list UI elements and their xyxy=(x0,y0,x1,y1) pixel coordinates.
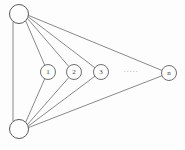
edge-hub-top-node-3 xyxy=(28,17,95,68)
edge-hub-top-node-2 xyxy=(27,18,69,66)
hub-node-top[interactable] xyxy=(10,5,29,24)
hub-node-bottom[interactable] xyxy=(10,120,29,139)
node-3[interactable]: 3 xyxy=(94,65,109,80)
ellipsis-label: ····· xyxy=(124,68,139,76)
edge-group xyxy=(13,15,162,127)
edge-hub-bottom-node-3 xyxy=(28,76,95,126)
node-1[interactable]: 1 xyxy=(41,65,56,80)
node-3-label: 3 xyxy=(99,68,103,76)
graph-svg: 1 2 3 ····· n xyxy=(0,0,185,150)
edge-hub-bottom-node-n xyxy=(28,76,162,128)
node-2-label: 2 xyxy=(72,68,76,76)
hub-bottom-circle[interactable] xyxy=(10,120,29,139)
hub-top-circle[interactable] xyxy=(10,5,29,24)
graph-diagram-canvas: 1 2 3 ····· n xyxy=(0,0,185,150)
node-n-label: n xyxy=(167,69,171,77)
node-1-label: 1 xyxy=(46,68,50,76)
node-2[interactable]: 2 xyxy=(67,65,82,80)
edge-hub-bottom-node-2 xyxy=(27,77,69,124)
node-n[interactable]: n xyxy=(162,66,177,81)
